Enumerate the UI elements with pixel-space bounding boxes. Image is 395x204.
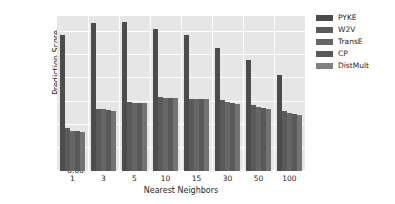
- legend-swatch-icon: [316, 63, 333, 69]
- bar-group: [243, 16, 274, 171]
- bar-distmult-100: [297, 115, 302, 171]
- bar-chart-figure: Prediction Score 0.000.050.100.150.200.2…: [0, 0, 395, 204]
- x-tick-label: 100: [270, 174, 310, 183]
- legend-label: W2V: [338, 24, 355, 35]
- legend-swatch-icon: [316, 51, 333, 57]
- bar-group: [88, 16, 119, 171]
- bar-group: [150, 16, 181, 171]
- x-axis-label: Nearest Neighbors: [57, 186, 305, 195]
- legend-item-w2v[interactable]: W2V: [316, 24, 395, 35]
- legend-item-distmult[interactable]: DistMult: [316, 60, 395, 71]
- legend-label: DistMult: [338, 60, 369, 71]
- bar-distmult-50: [266, 109, 271, 171]
- bar-distmult-10: [173, 98, 178, 171]
- bar-distmult-15: [204, 99, 209, 171]
- bar-group: [181, 16, 212, 171]
- bar-distmult-1: [80, 132, 85, 171]
- legend-label: CP: [338, 48, 348, 59]
- bar-group: [212, 16, 243, 171]
- legend-swatch-icon: [316, 15, 333, 21]
- bar-group: [57, 16, 88, 171]
- legend-item-cp[interactable]: CP: [316, 48, 395, 59]
- legend-item-pyke[interactable]: PYKE: [316, 12, 395, 23]
- legend-swatch-icon: [316, 39, 333, 45]
- legend-item-transe[interactable]: TransE: [316, 36, 395, 47]
- bar-distmult-5: [142, 103, 147, 171]
- bar-distmult-30: [235, 104, 240, 171]
- legend-label: PYKE: [338, 12, 357, 23]
- legend-swatch-icon: [316, 27, 333, 33]
- bar-group: [119, 16, 150, 171]
- bar-distmult-3: [111, 111, 116, 171]
- bar-group: [274, 16, 305, 171]
- plot-area: [57, 16, 305, 171]
- legend: PYKEW2VTransECPDistMult: [316, 12, 395, 72]
- legend-label: TransE: [338, 36, 363, 47]
